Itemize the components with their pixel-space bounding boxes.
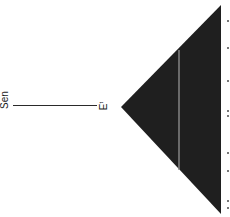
edge-tick	[227, 47, 229, 49]
edge-tick	[227, 207, 229, 209]
edge-tick	[227, 115, 229, 117]
collapsed-clade-triangle	[0, 0, 230, 217]
edge-tick	[227, 80, 229, 82]
edge-tick	[227, 170, 229, 172]
edge-tick	[227, 20, 229, 22]
edge-tick	[227, 152, 229, 154]
clade-triangle-shape	[121, 5, 221, 214]
tree-diagram: Sen Et	[0, 0, 230, 217]
edge-tick	[227, 200, 229, 202]
edge-tick	[227, 110, 229, 112]
